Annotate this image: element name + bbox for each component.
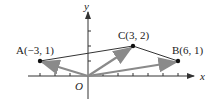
point-b — [176, 59, 180, 63]
point-a-label: A(−3, 1) — [16, 44, 54, 57]
x-axis-label: x — [199, 70, 205, 82]
y-axis-label: y — [83, 0, 89, 12]
point-c-label: C(3, 2) — [118, 29, 150, 42]
point-a — [38, 59, 42, 63]
point-b-label: B(6, 1) — [172, 44, 204, 57]
vector-diagram: A(−3, 1) C(3, 2) B(6, 1) x y O — [0, 0, 217, 106]
vector-oa — [42, 62, 88, 76]
point-c — [131, 44, 135, 48]
origin-label: O — [75, 80, 83, 92]
